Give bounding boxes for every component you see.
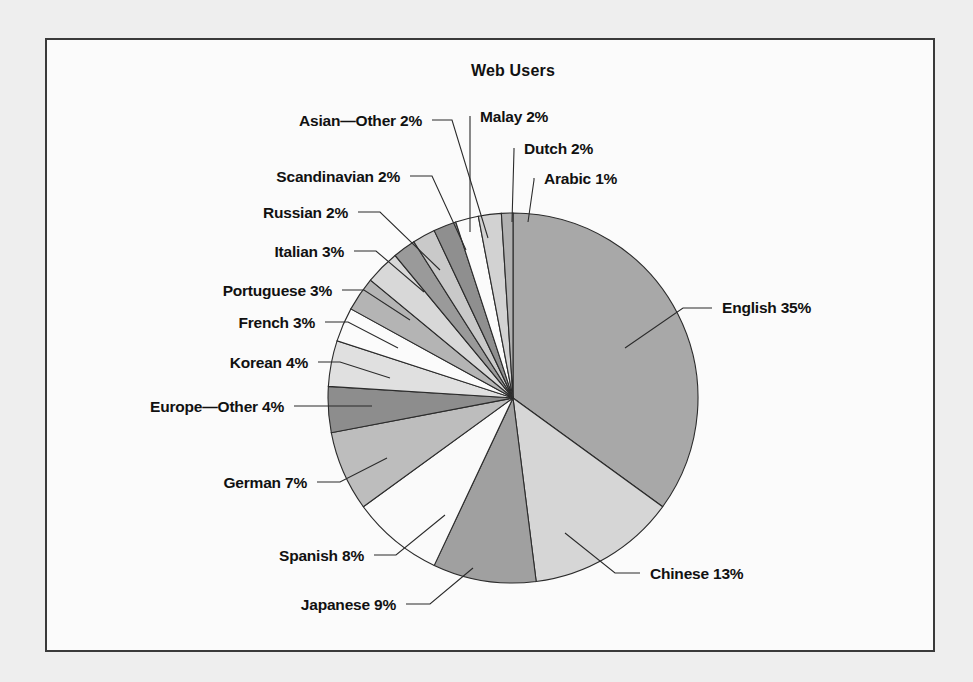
- slice-label-russian: Russian 2%: [263, 204, 348, 221]
- slice-label-scandinavian: Scandinavian 2%: [276, 168, 400, 185]
- pie-chart-figure: Web Users English 35% Chinese 13% Japane…: [0, 0, 973, 682]
- slice-label-german: German 7%: [224, 474, 308, 491]
- pie-slices: [328, 213, 698, 583]
- slice-label-japanese: Japanese 9%: [301, 596, 397, 613]
- slice-label-english: English 35%: [722, 299, 812, 316]
- slice-label-korean: Korean 4%: [230, 354, 309, 371]
- slice-label-french: French 3%: [238, 314, 315, 331]
- slice-label-spanish: Spanish 8%: [279, 547, 364, 564]
- slice-label-italian: Italian 3%: [275, 243, 345, 260]
- slice-label-dutch: Dutch 2%: [524, 140, 593, 157]
- slice-label-arabic: Arabic 1%: [544, 170, 618, 187]
- slice-label-malay: Malay 2%: [480, 108, 549, 125]
- chart-title: Web Users: [471, 62, 555, 79]
- page-background: Web Users English 35% Chinese 13% Japane…: [0, 0, 973, 682]
- slice-label-chinese: Chinese 13%: [650, 565, 744, 582]
- slice-label-europe-other: Europe—Other 4%: [150, 398, 284, 415]
- slice-label-asian-other: Asian—Other 2%: [299, 112, 422, 129]
- slice-label-portuguese: Portuguese 3%: [223, 282, 333, 299]
- leader-line-dutch: [512, 148, 514, 222]
